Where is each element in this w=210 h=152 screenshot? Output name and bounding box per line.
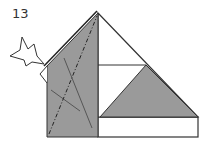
flap-notch <box>40 66 47 83</box>
origami-diagram <box>0 0 210 152</box>
push-arrow-icon <box>10 37 44 66</box>
bottom-white-strip <box>98 117 198 137</box>
